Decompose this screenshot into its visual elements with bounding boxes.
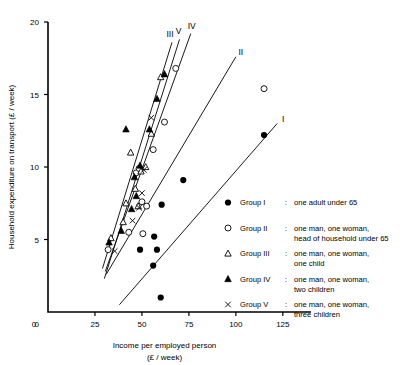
legend-separator: : bbox=[285, 300, 287, 309]
fit-line-label-II: II bbox=[238, 47, 243, 57]
legend-label-group-iv: Group IV bbox=[240, 275, 271, 284]
legend-desc-line1: one man, one woman, bbox=[294, 275, 369, 284]
marker-group-ii bbox=[150, 147, 156, 153]
fit-line-label-IV: IV bbox=[188, 21, 196, 31]
marker-group-ii bbox=[126, 229, 132, 235]
y-tick-label: 10 bbox=[30, 163, 39, 172]
legend-desc-line2: one child bbox=[294, 259, 324, 268]
y-tick-label: 0 bbox=[35, 320, 40, 329]
legend-separator: : bbox=[285, 198, 287, 207]
fit-line-label-V: V bbox=[176, 26, 182, 36]
marker-group-ii bbox=[261, 86, 267, 92]
legend-separator: : bbox=[285, 275, 287, 284]
y-tick-label: 20 bbox=[30, 18, 39, 27]
marker-group-i bbox=[151, 234, 157, 240]
x-tick-label: 100 bbox=[229, 320, 243, 329]
marker-group-ii bbox=[161, 119, 167, 125]
marker-group-iv bbox=[118, 227, 125, 233]
marker-group-v bbox=[139, 190, 145, 196]
legend-desc-line1: one man, one woman, bbox=[294, 300, 369, 309]
marker-group-v bbox=[130, 218, 136, 224]
legend-separator: : bbox=[285, 249, 287, 258]
fit-line-label-III: III bbox=[166, 29, 173, 39]
marker-legend-group-iv bbox=[225, 275, 232, 281]
marker-group-ii bbox=[173, 65, 179, 71]
legend-label-group-v: Group V bbox=[240, 300, 269, 309]
marker-group-iv bbox=[128, 205, 135, 211]
x-axis-title-line2: (£ / week) bbox=[147, 353, 182, 362]
marker-group-iii bbox=[120, 219, 126, 225]
marker-legend-group-i bbox=[225, 199, 231, 205]
marker-group-v bbox=[149, 115, 155, 121]
marker-legend-group-iii bbox=[225, 250, 231, 256]
fit-line-label-I: I bbox=[282, 114, 284, 124]
marker-group-iv bbox=[123, 126, 130, 132]
marker-group-ii bbox=[139, 199, 145, 205]
marker-group-i bbox=[261, 132, 267, 138]
marker-group-ii bbox=[105, 247, 111, 253]
legend-desc-line1: one man, one woman, bbox=[294, 249, 369, 258]
x-tick-label: 75 bbox=[184, 320, 193, 329]
y-tick-label: 15 bbox=[30, 91, 39, 100]
marker-group-i bbox=[137, 247, 143, 253]
marker-legend-group-ii bbox=[225, 225, 231, 231]
marker-group-iii bbox=[127, 149, 133, 155]
legend-desc-line2: two children bbox=[294, 285, 335, 294]
y-tick-label: 5 bbox=[35, 236, 40, 245]
fit-line-V bbox=[104, 39, 179, 278]
legend-label-group-i: Group I bbox=[240, 198, 265, 207]
marker-group-i bbox=[158, 294, 164, 300]
x-axis-title-line1: Income per employed person bbox=[113, 341, 217, 350]
legend-desc-line2: three children bbox=[294, 310, 340, 319]
legend-desc-line1: one adult under 65 bbox=[294, 198, 357, 207]
marker-group-i bbox=[150, 263, 156, 269]
x-tick-label: 25 bbox=[91, 320, 100, 329]
legend-desc-line1: one man, one woman, bbox=[294, 224, 369, 233]
x-tick-label: 125 bbox=[276, 320, 290, 329]
y-axis-title: Household expenditure on transport (£ / … bbox=[7, 84, 16, 249]
legend-label-group-iii: Group III bbox=[240, 249, 270, 258]
legend-separator: : bbox=[285, 224, 287, 233]
marker-legend-group-v bbox=[225, 302, 231, 308]
scatter-plot: 025507510012505101520Income per employed… bbox=[0, 0, 407, 365]
legend-label-group-ii: Group II bbox=[240, 224, 267, 233]
marker-group-iv bbox=[137, 162, 144, 168]
marker-group-ii bbox=[140, 231, 146, 237]
x-tick-label: 50 bbox=[137, 320, 146, 329]
marker-group-i bbox=[180, 177, 186, 183]
marker-group-i bbox=[154, 247, 160, 253]
chart-figure: 025507510012505101520Income per employed… bbox=[0, 0, 407, 365]
legend-desc-line2: head of household under 65 bbox=[294, 234, 389, 243]
marker-group-i bbox=[159, 202, 165, 208]
marker-group-iv bbox=[133, 192, 140, 198]
